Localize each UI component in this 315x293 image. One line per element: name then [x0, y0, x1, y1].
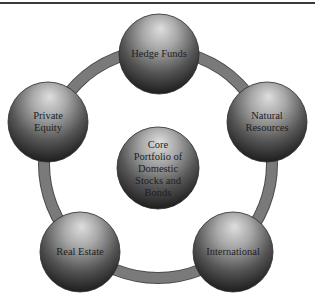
node-international: International — [193, 212, 273, 292]
node-label: Real Estate — [56, 246, 104, 258]
node-real-estate: Real Estate — [40, 212, 120, 292]
node-private-equity: Private Equity — [8, 82, 88, 162]
node-label: International — [206, 246, 260, 258]
core-label: Core Portfolio of Domestic Stocks and Bo… — [134, 139, 183, 199]
node-core-portfolio: Core Portfolio of Domestic Stocks and Bo… — [118, 128, 198, 208]
node-label: Hedge Funds — [131, 48, 187, 60]
node-label: Private Equity — [33, 110, 63, 134]
node-label: Natural Resources — [245, 110, 288, 134]
node-natural-resources: Natural Resources — [227, 82, 307, 162]
node-hedge-funds: Hedge Funds — [119, 14, 199, 94]
